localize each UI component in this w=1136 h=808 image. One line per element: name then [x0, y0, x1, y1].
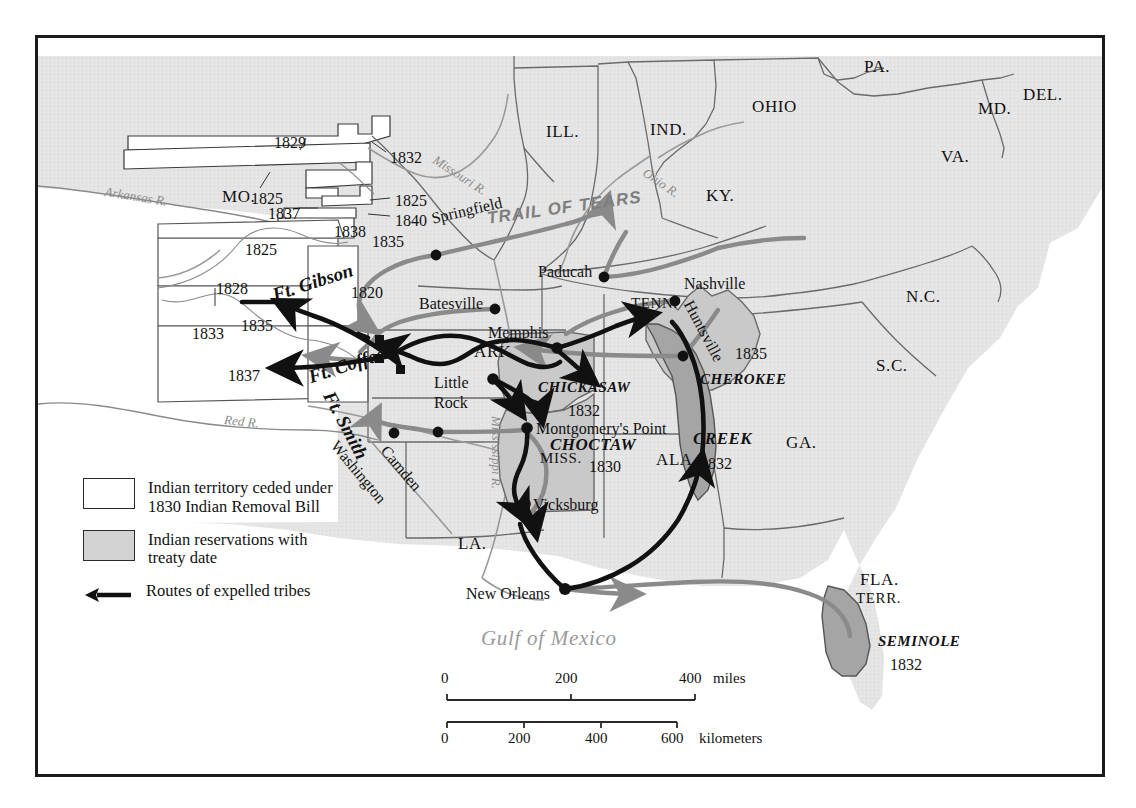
city-label-memphis: Memphis [488, 325, 548, 341]
reservation-swatch [83, 530, 135, 561]
ceded-year-label: 1838 [334, 224, 366, 240]
map-frame: ILL.IND.OHIOPA.MD.DEL.VA.KY.MO.TENN.N.C.… [35, 35, 1105, 777]
state-label-ohio: OHIO [752, 98, 797, 115]
city-label-little: Little [434, 375, 469, 391]
state-label-pa: PA. [864, 58, 890, 75]
legend-item-reservation: Indian reservations withtreaty date [83, 530, 383, 569]
ceded-year-label: 1820 [351, 285, 383, 301]
reservation-name-creek: CREEK [693, 430, 752, 447]
city-label-batesville: Batesville [419, 296, 483, 312]
scale-miles-unit: miles [713, 670, 746, 687]
river-label-redr: Red R. [224, 413, 260, 430]
legend-label-ceded: Indian territory ceded under1830 Indian … [148, 478, 333, 517]
reservation-name-chickasaw: CHICKASAW [538, 380, 630, 395]
ceded-year-label: 1835 [372, 234, 404, 250]
ceded-year-label: 1825 [395, 193, 427, 209]
state-label-ark: ARK. [474, 343, 517, 360]
city-label-neworleans: New Orleans [466, 586, 550, 602]
state-label-ind: IND. [650, 121, 687, 138]
state-label-nc: N.C. [906, 288, 941, 305]
ceded-year-label: 1835 [241, 318, 273, 334]
reservation-year-seminole: 1832 [890, 657, 922, 673]
reservation-year-choctaw: 1830 [589, 459, 621, 475]
reservation-year-cherokee: 1835 [735, 346, 767, 362]
state-label-ga: GA. [786, 434, 817, 451]
legend-item-ceded: Indian territory ceded under1830 Indian … [83, 478, 383, 517]
state-label-la: LA. [458, 535, 487, 552]
scale-km-600: 600 [661, 730, 684, 747]
state-label-md: MD. [978, 100, 1011, 117]
ceded-year-label: 1840 [395, 213, 427, 229]
ceded-swatch [83, 478, 135, 509]
legend-label-routes: Routes of expelled tribes [146, 581, 311, 601]
legend-label-reservation: Indian reservations withtreaty date [148, 530, 307, 569]
scale-km-0: 0 [441, 730, 449, 747]
gulf-of-mexico-label: Gulf of Mexico [481, 628, 617, 649]
ceded-year-label: 1832 [390, 150, 422, 166]
state-label-terr: TERR. [856, 591, 901, 606]
reservation-name-cherokee: CHEROKEE [700, 372, 787, 387]
state-label-fla: FLA. [860, 571, 899, 588]
ceded-year-label: 1828 [216, 281, 248, 297]
ceded-year-label: 1829 [274, 135, 306, 151]
city-label-vicksburg: Vicksburg [533, 497, 598, 513]
reservation-name-seminole: SEMINOLE [878, 634, 960, 649]
map-legend: Indian territory ceded under1830 Indian … [83, 478, 383, 623]
ceded-year-label: 1825 [245, 242, 277, 258]
scale-km-400: 400 [585, 730, 608, 747]
scale-miles-400: 400 [679, 670, 702, 687]
state-label-del: DEL. [1023, 86, 1063, 103]
scale-bars: 0 200 400 miles 0 200 400 600 kilometers [423, 670, 793, 770]
city-label-paducah: Paducah [538, 264, 592, 280]
state-label-ky: KY. [706, 187, 734, 204]
scale-miles-200: 200 [555, 670, 578, 687]
reservation-year-chickasaw: 1832 [568, 403, 600, 419]
state-label-ill: ILL. [546, 123, 579, 140]
state-label-sc: S.C. [876, 357, 908, 374]
route-arrow-icon [83, 581, 133, 610]
city-label-nashville: Nashville [684, 276, 745, 292]
ceded-year-label: 1837 [228, 368, 260, 384]
scale-km-unit: kilometers [699, 730, 762, 747]
reservation-name-choctaw: CHOCTAW [550, 436, 636, 453]
river-label-mississippir: Mississippi R. [490, 416, 503, 489]
scale-km-200: 200 [508, 730, 531, 747]
city-label-rock: Rock [434, 395, 468, 411]
scale-miles-0: 0 [441, 670, 449, 687]
ceded-year-label: 1837 [268, 206, 300, 222]
ceded-year-label: 1833 [192, 326, 224, 342]
state-label-ala: ALA. [656, 451, 698, 468]
map-figure: ILL.IND.OHIOPA.MD.DEL.VA.KY.MO.TENN.N.C.… [0, 0, 1136, 808]
state-label-tenn: TENN. [631, 296, 678, 311]
state-label-va: VA. [941, 148, 969, 165]
reservation-year-creek: 1832 [700, 456, 732, 472]
legend-item-routes: Routes of expelled tribes [83, 581, 383, 610]
map-canvas: ILL.IND.OHIOPA.MD.DEL.VA.KY.MO.TENN.N.C.… [38, 38, 1102, 774]
